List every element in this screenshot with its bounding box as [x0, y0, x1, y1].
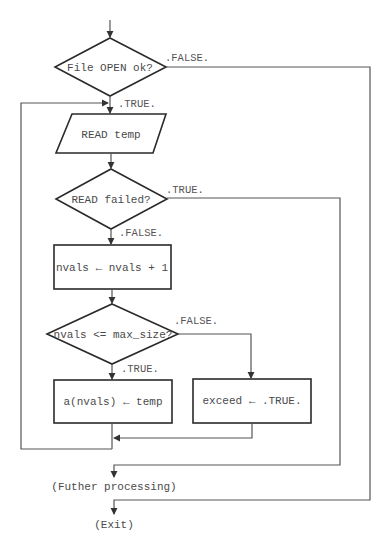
decision-file-open: File OPEN ok?	[55, 38, 166, 96]
process-exceed: exceed ← .TRUE.	[193, 379, 311, 423]
edge-label-read-failed-false: .FALSE.	[119, 227, 163, 239]
process-store-text: a(nvals) ← temp	[63, 396, 162, 408]
decision-read-failed: READ failed?	[56, 169, 167, 229]
edge-size-check-false	[178, 334, 251, 378]
edge-label-size-check-true: .TRUE.	[121, 363, 159, 375]
edge-label-size-check-false: .FALSE.	[174, 315, 218, 327]
process-increment: nvals ← nvals + 1	[54, 245, 171, 289]
decision-size-check-text: nvals <= max_size?	[54, 329, 173, 341]
edge-label-file-open-false: .FALSE.	[165, 52, 209, 64]
decision-file-open-text: File OPEN ok?	[67, 62, 153, 74]
process-store: a(nvals) ← temp	[54, 380, 172, 423]
io-read-temp: READ temp	[56, 114, 166, 153]
edge-exceed-merge	[114, 423, 252, 438]
edge-label-read-failed-true: .TRUE.	[166, 184, 204, 196]
process-increment-text: nvals ← nvals + 1	[56, 262, 169, 274]
io-read-temp-text: READ temp	[81, 129, 140, 141]
terminal-further-processing: (Futher processing)	[51, 481, 176, 493]
edge-label-file-open-true: .TRUE.	[118, 98, 156, 110]
terminal-exit: (Exit)	[94, 519, 134, 531]
decision-read-failed-text: READ failed?	[71, 194, 150, 206]
decision-size-check: nvals <= max_size?	[47, 304, 178, 364]
process-exceed-text: exceed ← .TRUE.	[202, 395, 301, 407]
flowchart: File OPEN ok? .FALSE. .TRUE. READ temp R…	[0, 0, 390, 543]
